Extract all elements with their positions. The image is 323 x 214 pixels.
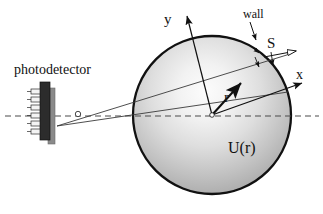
photodetector-label: photodetector xyxy=(14,63,91,77)
photodetector-assembly xyxy=(27,82,55,144)
x-axis-label: x xyxy=(296,68,303,82)
detector-pin-leads xyxy=(27,92,31,132)
r-vector-label: r xyxy=(224,90,229,105)
detector-body xyxy=(40,82,50,140)
diagram-canvas xyxy=(0,0,323,214)
poynting-arrow xyxy=(264,51,296,57)
wall-leader-line xyxy=(250,22,256,40)
origin-point xyxy=(210,113,215,118)
poynting-vector-label: S xyxy=(267,36,275,51)
scattering-diagram: photodetector wall S y x r U(r) xyxy=(0,0,323,214)
pinhole-marker xyxy=(75,111,80,116)
detector-pixel-comb xyxy=(31,89,40,134)
y-axis-label: y xyxy=(164,12,172,27)
wall-label: wall xyxy=(243,8,264,20)
potential-label: U(r) xyxy=(228,140,256,156)
